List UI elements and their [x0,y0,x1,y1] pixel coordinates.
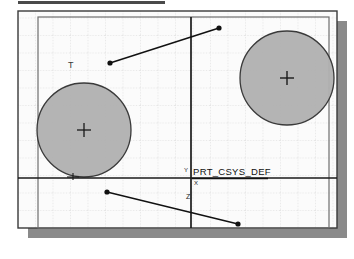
leader-upper-dot-end[interactable] [216,25,221,30]
cad-canvas[interactable]: T X Y Z PRT_CSYS_DEF [0,0,354,259]
csys-label[interactable]: PRT_CSYS_DEF [193,166,271,177]
leader-lower-dot-end[interactable] [235,221,240,226]
cad-drawing-viewport[interactable]: T X Y Z PRT_CSYS_DEF [0,0,354,259]
circle-left-tag-label: T [68,60,74,70]
title-bar-stub [18,1,165,4]
leader-upper-dot-start[interactable] [107,60,112,65]
axis-tick-label-y: Y [184,167,188,173]
leader-lower-dot-start[interactable] [104,189,109,194]
axis-tick-label-x: X [194,180,198,186]
axis-tick-label-z: Z [186,193,191,200]
